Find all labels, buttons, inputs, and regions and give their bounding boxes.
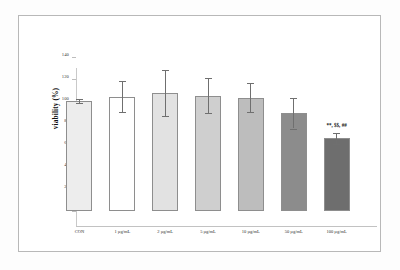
- error-bar-cap-upper: [290, 98, 297, 99]
- y-axis-tick-mark: [72, 211, 76, 212]
- figure-root: viability (%) 020406080100120140 CON1 µg…: [0, 0, 400, 270]
- bar-group: [152, 57, 178, 211]
- error-bar-cap-lower: [290, 129, 297, 130]
- bar-group: [281, 57, 307, 211]
- x-axis-label: 100 µg/mL: [311, 230, 363, 235]
- error-bar-stem: [165, 70, 166, 116]
- bar-group: [195, 57, 221, 211]
- error-bar-stem: [250, 83, 251, 112]
- x-axis-line: [76, 226, 377, 227]
- y-axis-title: viability (%): [51, 69, 60, 149]
- error-bar-cap-lower: [205, 113, 212, 114]
- error-bar-stem: [336, 133, 337, 144]
- bar-group: [238, 57, 264, 211]
- error-bar-cap-upper: [333, 133, 340, 134]
- error-bar-cap-lower: [247, 112, 254, 113]
- error-bar-cap-upper: [205, 78, 212, 79]
- error-bar-stem: [122, 81, 123, 112]
- bar-group: [109, 57, 135, 211]
- error-bar-stem: [208, 78, 209, 113]
- error-bar-cap-upper: [162, 70, 169, 71]
- bar: [66, 101, 92, 211]
- error-bar-cap-upper: [119, 81, 126, 82]
- error-bar-cap-lower: [162, 116, 169, 117]
- bar-group: [324, 57, 350, 211]
- bar-group: [66, 57, 92, 211]
- error-bar-cap-upper: [247, 83, 254, 84]
- error-bar-cap-lower: [333, 144, 340, 145]
- bar: [109, 97, 135, 211]
- figure-frame: viability (%) 020406080100120140 CON1 µg…: [18, 15, 381, 252]
- error-bar-stem: [293, 98, 294, 129]
- error-bar-cap-lower: [76, 103, 83, 104]
- error-bar-cap-upper: [76, 99, 83, 100]
- significance-annotation: **, $$, ##: [317, 123, 357, 128]
- bar: [324, 138, 350, 211]
- bar: [238, 98, 264, 211]
- error-bar-cap-lower: [119, 112, 126, 113]
